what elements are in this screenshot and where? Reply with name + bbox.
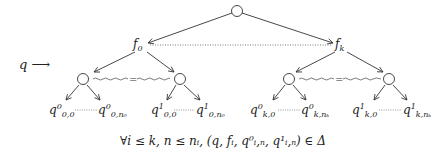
leaf-label: q0k,nₖ (301, 103, 329, 119)
leaf-label: q00,0 (49, 103, 75, 119)
node-f0-right (175, 74, 186, 85)
node-fk-left (284, 74, 295, 85)
leaf-label: q1k,0 (352, 103, 377, 119)
leaf-label: q1k,nₖ (403, 103, 431, 119)
svg-text:=: = (129, 74, 137, 85)
edge-root-fk (242, 13, 333, 43)
function-label-fk: fk (335, 38, 344, 53)
leaf-label: q10,n₀ (196, 103, 225, 119)
leaf-label: q0k,0 (250, 103, 275, 119)
input-state-label: q ⟶ (19, 58, 50, 71)
transition-formula: ∀i ≤ k, n ≤ nᵢ, (q, fᵢ, q⁰ᵢ,ₙ, q¹ᵢ,ₙ) ∈ … (0, 134, 446, 148)
svg-text:=: = (335, 74, 343, 85)
edge-root-f0 (148, 13, 232, 43)
root-node (232, 6, 243, 17)
node-fk-right (384, 74, 395, 85)
leaf-label: q00,n₀ (98, 103, 127, 119)
leaf-label: q10,0 (151, 103, 177, 119)
node-f0-left (78, 74, 89, 85)
function-label-f0: f0 (133, 38, 143, 53)
